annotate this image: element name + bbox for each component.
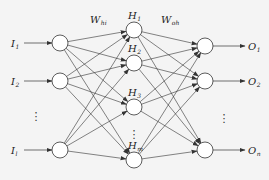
edge-H2-O1 xyxy=(142,48,197,61)
output-label-O1: O1 xyxy=(248,41,261,53)
edge-I1-Hm xyxy=(64,50,129,153)
edge-H2-On xyxy=(139,69,200,144)
edge-H3-O2 xyxy=(142,84,198,104)
weight-label-hidden-output: Woh xyxy=(161,14,179,26)
edge-Il-Hm xyxy=(68,151,126,159)
neuron-node-Hm xyxy=(126,152,142,168)
neuron-node-H2 xyxy=(126,55,142,71)
input-label-I1: I1 xyxy=(10,38,19,50)
edge-H1-O1 xyxy=(142,32,197,44)
output-label-On: On xyxy=(248,145,261,157)
hidden-label-Hm: Hm xyxy=(127,140,143,152)
hidden-ellipsis: ⋮ xyxy=(129,128,140,141)
edge-Hm-O1 xyxy=(138,53,201,153)
edge-Hm-O2 xyxy=(139,87,199,154)
edge-I2-H2 xyxy=(68,65,126,79)
hidden-label-H3: H3 xyxy=(127,87,141,99)
hidden-label-H1: H1 xyxy=(127,10,141,22)
hidden-label-H2: H2 xyxy=(127,43,141,55)
edge-I1-H1 xyxy=(68,31,126,41)
output-ellipsis: ⋮ xyxy=(219,112,230,125)
input-ellipsis: ⋮ xyxy=(31,110,42,123)
neuron-node-On xyxy=(197,142,213,158)
input-label-Il: Il xyxy=(10,145,17,157)
input-label-I2: I2 xyxy=(10,76,19,88)
edge-I1-H2 xyxy=(68,45,127,61)
edge-I2-Hm xyxy=(65,87,128,154)
neuron-node-O1 xyxy=(197,38,213,54)
weight-label-input-hidden: Whi xyxy=(90,14,107,26)
neuron-node-Il xyxy=(52,142,68,158)
edge-H3-On xyxy=(141,111,198,146)
neuron-node-H1 xyxy=(126,22,142,38)
edge-Il-H2 xyxy=(65,69,129,144)
edge-Il-H3 xyxy=(67,111,127,146)
neuron-node-I1 xyxy=(52,35,68,51)
edge-Hm-On xyxy=(142,151,197,159)
neural-network-diagram: I1I2IlO1O2OnH1H2H3Hm⋮⋮⋮WhiWoh xyxy=(0,0,269,180)
output-label-O2: O2 xyxy=(248,76,261,88)
edge-H1-On xyxy=(138,37,201,143)
neuron-node-O2 xyxy=(197,73,213,89)
neuron-node-H3 xyxy=(126,99,142,115)
neuron-node-I2 xyxy=(52,73,68,89)
